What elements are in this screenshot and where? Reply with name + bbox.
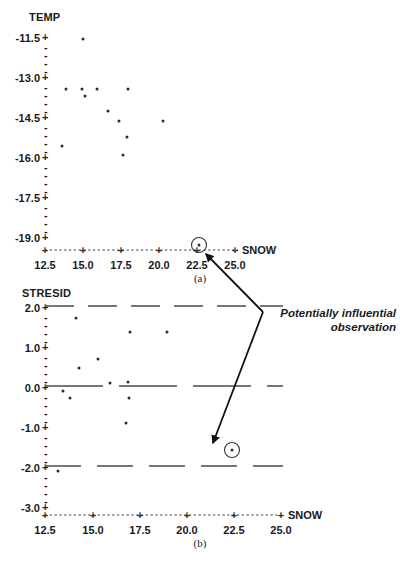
influential-observation-annotation: Potentially influential observation <box>248 306 396 335</box>
regression-diagnostic-figure: TEMP -11.5 -13.0 -14.5 -16.0 -17.5 -19.0… <box>0 0 400 571</box>
arrow-to-panel-a <box>206 254 263 312</box>
annotation-arrows <box>0 0 400 571</box>
